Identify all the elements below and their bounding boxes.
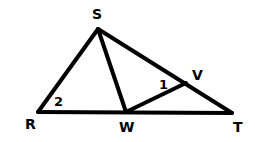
point-label-s: S — [92, 6, 102, 22]
segment-rs — [38, 29, 98, 112]
segment-sw — [98, 29, 126, 112]
segment-rt — [38, 112, 232, 113]
angle-label-2: 2 — [54, 94, 63, 109]
point-label-w: W — [119, 119, 134, 135]
angle-label-1: 1 — [159, 77, 168, 92]
segment-st — [98, 29, 232, 113]
point-label-r: R — [25, 116, 36, 132]
point-label-t: T — [233, 119, 243, 135]
segment-wv — [126, 83, 186, 112]
triangle-diagram: S R W T V 1 2 — [0, 0, 255, 142]
point-label-v: V — [192, 67, 203, 83]
